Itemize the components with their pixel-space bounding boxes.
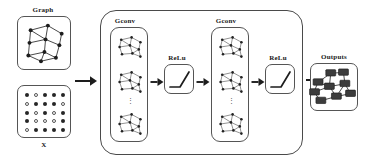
feature-matrix-cell xyxy=(25,128,29,132)
feature-matrix-cell xyxy=(43,128,47,132)
feature-matrix-cell xyxy=(34,102,38,106)
feature-matrix-cell xyxy=(61,93,65,97)
feature-matrix-cell xyxy=(43,93,47,97)
feature-matrix-cell xyxy=(61,111,65,115)
feature-matrix-grid xyxy=(23,91,67,134)
feature-matrix-cell xyxy=(43,111,47,115)
feature-matrix-cell xyxy=(34,93,38,97)
relu-block-2 xyxy=(265,64,295,94)
feature-matrix-cell xyxy=(34,119,38,123)
input-feature-matrix-box xyxy=(17,85,71,138)
feature-matrix-cell xyxy=(61,128,65,132)
feature-matrix-cell xyxy=(25,93,29,97)
feature-matrix-cell xyxy=(52,102,56,106)
feature-matrix-cell xyxy=(52,93,56,97)
feature-matrix-cell xyxy=(61,102,65,106)
gconv-label-1: Gconv xyxy=(103,17,147,25)
feature-matrix-cell xyxy=(61,119,65,123)
relu-curve-2 xyxy=(266,65,296,95)
relu-label-2: ReLu xyxy=(261,54,295,62)
feature-matrix-cell xyxy=(34,128,38,132)
gconv-ellipsis: ⋮ xyxy=(111,99,149,104)
input-graph-box xyxy=(17,16,71,70)
matrix-label: X xyxy=(21,141,67,149)
feature-matrix-cell xyxy=(43,119,47,123)
arrow-gconv2-to-relu2 xyxy=(251,76,265,88)
relu-curve-1 xyxy=(165,65,195,95)
gconv-feature-graph xyxy=(215,68,247,96)
outputs-box xyxy=(310,63,358,111)
feature-matrix-cell xyxy=(43,102,47,106)
outputs-label: Outputs xyxy=(309,53,359,61)
gconv-feature-graph xyxy=(114,110,146,138)
gconv-block-2: ⋮ xyxy=(211,27,249,142)
feature-matrix-cell xyxy=(25,102,29,106)
arrow-gconv1-to-relu1 xyxy=(150,76,164,88)
gconv-graph-stack-2: ⋮ xyxy=(212,28,250,143)
relu-label-1: ReLu xyxy=(160,54,194,62)
arrow-relu1-to-gconv2 xyxy=(196,76,210,88)
arrow-input-to-network xyxy=(74,74,98,88)
feature-matrix-cell xyxy=(34,111,38,115)
gconv-feature-graph xyxy=(114,68,146,96)
gconv-block-1: ⋮ xyxy=(110,27,148,142)
graph-label: Graph xyxy=(20,6,66,14)
feature-matrix-cell xyxy=(25,111,29,115)
outputs-graph-drawing xyxy=(311,64,359,112)
feature-matrix-cell xyxy=(52,128,56,132)
input-graph-drawing xyxy=(18,17,72,71)
gconv-feature-graph xyxy=(114,33,146,61)
relu-block-1 xyxy=(164,64,194,94)
figure-canvas: Graph xyxy=(0,0,366,164)
feature-matrix-cell xyxy=(25,119,29,123)
gconv-label-2: Gconv xyxy=(204,17,248,25)
gconv-feature-graph xyxy=(215,110,247,138)
gconv-graph-stack-1: ⋮ xyxy=(111,28,149,143)
gconv-ellipsis: ⋮ xyxy=(212,99,250,104)
feature-matrix-cell xyxy=(52,111,56,115)
gconv-feature-graph xyxy=(215,33,247,61)
feature-matrix-cell xyxy=(52,119,56,123)
